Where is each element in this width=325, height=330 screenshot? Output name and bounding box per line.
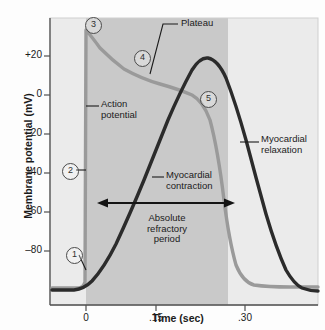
y-tick-label-m40: –40: [14, 166, 42, 177]
phase-marker-5: 5: [200, 91, 217, 108]
phase-marker-3: 3: [85, 17, 102, 34]
annotation-myocardial-relaxation: Myocardial relaxation: [261, 134, 307, 155]
annotation-action-potential: Action potential: [101, 99, 137, 120]
y-tick-label-0: 0: [14, 88, 42, 99]
x-axis-title: Time (sec): [118, 313, 238, 325]
phase-marker-1: 1: [66, 247, 83, 264]
y-tick-label-m20: –20: [14, 127, 42, 138]
annotation-myocardial-contraction: Myocardial contraction: [166, 170, 212, 191]
y-tick-label-m80: –80: [14, 244, 42, 255]
phase-marker-4: 4: [134, 50, 151, 67]
annotation-absolute-refractory-period: Absolute refractory period: [131, 213, 203, 245]
y-axis-ticks: [44, 56, 50, 251]
x-axis-ticks: [86, 305, 245, 311]
y-tick-label-20p: +20: [14, 49, 42, 60]
phase-marker-2: 2: [62, 163, 79, 180]
cardiac-action-potential-figure: Membrane potential (mV) +20 0 –20 –40 –6…: [0, 0, 325, 330]
y-tick-label-m60: –60: [14, 205, 42, 216]
x-tick-label-0: 0: [71, 312, 101, 323]
annotation-plateau: Plateau: [181, 18, 213, 29]
figure-canvas: [0, 0, 325, 330]
